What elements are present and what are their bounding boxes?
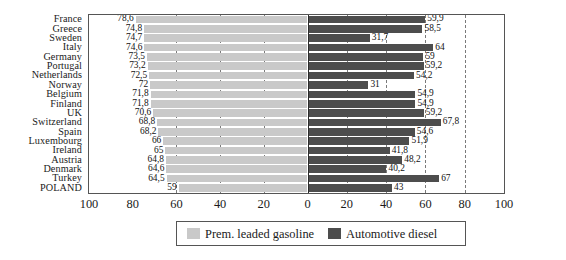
x-axis-tick-labels: 10080604020020406080100 — [88, 196, 505, 214]
value-label-diesel-greece: 58,5 — [424, 24, 440, 33]
bar-diesel-poland — [308, 184, 392, 192]
legend-item-gasoline[interactable]: Prem. leaded gasoline — [187, 227, 314, 241]
value-label-diesel-luxembourg: 51,9 — [411, 136, 427, 145]
bar-row: 78,659,9 — [89, 15, 504, 24]
bar-diesel-turkey — [308, 175, 440, 183]
value-label-diesel-sweden: 31,7 — [372, 33, 388, 42]
value-label-diesel-uk: 59,2 — [426, 108, 442, 117]
bar-gasoline-denmark — [166, 165, 307, 173]
value-label-diesel-netherlands: 54,2 — [416, 71, 432, 80]
bar-gasoline-netherlands — [149, 72, 307, 80]
bar-diesel-portugal — [308, 62, 424, 70]
chart-legend: Prem. leaded gasolineAutomotive diesel — [176, 221, 466, 246]
bar-diesel-greece — [308, 25, 423, 33]
bar-gasoline-luxembourg — [163, 137, 307, 145]
x-tick-left-100: 100 — [80, 196, 99, 212]
x-tick-right-20: 20 — [341, 196, 353, 212]
value-label-diesel-switzerland: 67,8 — [443, 117, 459, 126]
legend-swatch-diesel — [328, 228, 341, 239]
bar-diesel-luxembourg — [308, 137, 410, 145]
x-tick-left-0: 0 — [304, 196, 310, 212]
x-tick-left-80: 80 — [126, 196, 138, 212]
bar-gasoline-france — [136, 16, 308, 24]
x-tick-left-20: 20 — [258, 196, 270, 212]
diverging-bar-chart: FranceGreeceSwedenItalyGermanyPortugalNe… — [0, 0, 566, 260]
bar-diesel-norway — [308, 81, 369, 89]
value-label-diesel-poland: 43 — [394, 183, 403, 192]
bar-gasoline-austria — [166, 156, 308, 164]
category-label-column: FranceGreeceSwedenItalyGermanyPortugalNe… — [0, 14, 84, 194]
legend-item-diesel[interactable]: Automotive diesel — [328, 227, 437, 241]
value-label-gasoline-poland: 59 — [167, 183, 176, 192]
category-label-poland: POLAND — [40, 183, 82, 192]
x-tick-right-80: 80 — [458, 196, 470, 212]
x-tick-right-100: 100 — [495, 196, 514, 212]
bar-diesel-belgium — [308, 91, 416, 99]
bar-row: 64,567 — [89, 174, 504, 183]
bar-gasoline-ireland — [165, 147, 307, 155]
bar-gasoline-portugal — [148, 62, 308, 70]
value-label-diesel-norway: 31 — [370, 80, 379, 89]
bar-diesel-finland — [308, 100, 416, 108]
bar-gasoline-uk — [153, 109, 307, 117]
bar-row: 74,664 — [89, 43, 504, 52]
bar-gasoline-turkey — [167, 175, 308, 183]
bar-row: 6651,9 — [89, 137, 504, 146]
x-tick-left-60: 60 — [170, 196, 182, 212]
bar-gasoline-italy — [144, 44, 307, 52]
x-tick-right-60: 60 — [419, 196, 431, 212]
bar-diesel-spain — [308, 128, 415, 136]
bar-gasoline-sweden — [144, 34, 307, 42]
bar-row: 71,854,9 — [89, 90, 504, 99]
bar-row: 73,259,2 — [89, 62, 504, 71]
bar-row: 74,858,5 — [89, 24, 504, 33]
x-tick-right-40: 40 — [380, 196, 392, 212]
bar-gasoline-finland — [151, 100, 308, 108]
plot-area: 78,659,974,858,574,731,774,66473,55973,2… — [88, 14, 505, 194]
bar-gasoline-germany — [147, 53, 308, 61]
bar-gasoline-greece — [144, 25, 307, 33]
bar-gasoline-belgium — [151, 91, 308, 99]
plot-inner: 78,659,974,858,574,731,774,66473,55973,2… — [89, 15, 504, 193]
bar-gasoline-norway — [150, 81, 307, 89]
legend-label: Automotive diesel — [346, 227, 437, 241]
bar-gasoline-poland — [179, 184, 308, 192]
bar-gasoline-spain — [158, 128, 307, 136]
value-label-diesel-turkey: 67 — [441, 174, 450, 183]
value-label-diesel-denmark: 40,2 — [388, 164, 404, 173]
bar-diesel-denmark — [308, 165, 387, 173]
bar-gasoline-switzerland — [157, 119, 307, 127]
bar-diesel-ireland — [308, 147, 390, 155]
bar-diesel-italy — [308, 44, 434, 52]
bar-diesel-sweden — [308, 34, 370, 42]
bar-row: 72,554,2 — [89, 71, 504, 80]
value-label-diesel-italy: 64 — [435, 43, 444, 52]
bar-diesel-germany — [308, 53, 424, 61]
legend-label: Prem. leaded gasoline — [205, 227, 314, 241]
value-label-gasoline-turkey: 64,5 — [148, 174, 164, 183]
bar-diesel-france — [308, 16, 426, 24]
bar-diesel-netherlands — [308, 72, 415, 80]
zero-axis-line — [308, 15, 309, 193]
bar-row: 5943 — [89, 184, 504, 193]
x-tick-left-40: 40 — [214, 196, 226, 212]
bar-row: 7231 — [89, 81, 504, 90]
value-label-diesel-austria: 48,2 — [404, 155, 420, 164]
legend-swatch-gasoline — [187, 228, 200, 239]
bar-diesel-uk — [308, 109, 424, 117]
